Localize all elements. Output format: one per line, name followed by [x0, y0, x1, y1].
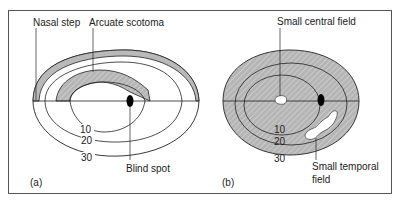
label-small-central-field: Small central field: [277, 16, 356, 27]
isopter-20-label: 20: [274, 136, 286, 147]
small-central-field-region: [275, 96, 287, 105]
isopter-10-label: 10: [80, 124, 92, 135]
isopter-10-label: 10: [274, 124, 286, 135]
isopter-30-label: 30: [274, 153, 286, 164]
panel-b-tag: (b): [222, 177, 234, 188]
label-nasal-step: Nasal step: [33, 17, 81, 28]
panel-b: Small central field Small temporal field…: [222, 16, 379, 188]
label-small-temporal-field-line1: Small temporal: [312, 161, 379, 172]
visual-field-diagram: Nasal step Arcuate scotoma Blind spot 10…: [0, 0, 410, 204]
blind-spot-icon: [318, 94, 325, 106]
panel-a-tag: (a): [30, 177, 42, 188]
blind-spot-icon: [127, 95, 134, 107]
isopter-20-label: 20: [81, 135, 93, 146]
arcuate-scotoma-region: [56, 70, 150, 101]
panel-a: Nasal step Arcuate scotoma Blind spot 10…: [30, 17, 199, 188]
label-arcuate-scotoma: Arcuate scotoma: [89, 17, 164, 28]
isopter-30-label: 30: [81, 152, 93, 163]
label-blind-spot: Blind spot: [126, 163, 170, 174]
isopter-30: [223, 50, 359, 155]
label-small-temporal-field-line2: field: [312, 174, 330, 185]
